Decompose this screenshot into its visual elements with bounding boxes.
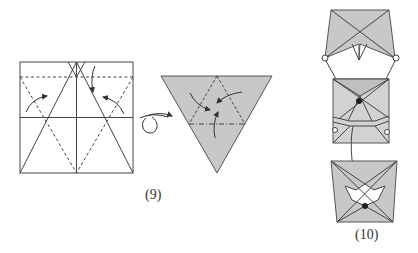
step10-bottom-model [331,161,397,222]
step9-triangle-model [161,76,272,173]
step-10-label: (10) [355,227,378,243]
step9-crease-square [20,62,133,173]
origami-diagram [0,0,418,253]
step-9-label: (9) [145,187,161,203]
step10-top-model [322,10,399,79]
turn-over-icon [140,114,172,134]
step9-fold-arrows [26,66,124,114]
